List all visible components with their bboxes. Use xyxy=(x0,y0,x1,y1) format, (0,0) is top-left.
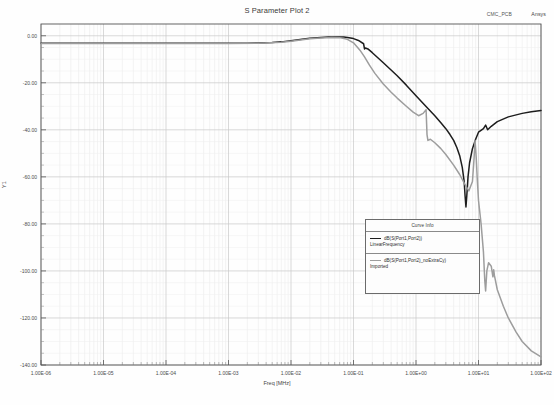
legend-color-swatch-0 xyxy=(370,238,381,239)
legend-entry-0[interactable]: dB(S(Port1,Port2)) LinearFrequency xyxy=(366,232,479,250)
legend-expression-1: dB(S(Port1,Port2)_noExtraCy) xyxy=(384,258,446,263)
svg-text:-100.00: -100.00 xyxy=(20,268,37,274)
axis-tick-labels: 1.00E-061.00E-051.00E-041.00E-031.00E-02… xyxy=(20,33,552,376)
legend-title: Curve Info xyxy=(366,220,479,228)
svg-text:-60.00: -60.00 xyxy=(23,174,37,180)
svg-text:1.00E-03: 1.00E-03 xyxy=(218,370,239,376)
chart-canvas: 1.00E-061.00E-051.00E-041.00E-031.00E-02… xyxy=(0,0,554,405)
legend-sweep-1: Imported xyxy=(370,264,475,269)
svg-text:1.00E-01: 1.00E-01 xyxy=(343,370,364,376)
svg-text:-20.00: -20.00 xyxy=(23,80,37,86)
svg-text:-140.00: -140.00 xyxy=(20,362,37,368)
legend-expression-0: dB(S(Port1,Port2)) xyxy=(384,236,422,241)
svg-text:-40.00: -40.00 xyxy=(23,127,37,133)
svg-text:1.00E+02: 1.00E+02 xyxy=(530,370,552,376)
grid-major xyxy=(41,24,541,365)
svg-text:1.00E+01: 1.00E+01 xyxy=(468,370,490,376)
legend-entry-1[interactable]: dB(S(Port1,Port2)_noExtraCy) Imported xyxy=(366,254,479,272)
svg-text:1.00E-06: 1.00E-06 xyxy=(31,370,52,376)
legend-sweep-0: LinearFrequency xyxy=(370,242,475,247)
svg-text:1.00E-05: 1.00E-05 xyxy=(93,370,114,376)
svg-text:-80.00: -80.00 xyxy=(23,221,37,227)
legend-color-swatch-1 xyxy=(370,260,381,261)
svg-text:1.00E-04: 1.00E-04 xyxy=(156,370,177,376)
legend-panel[interactable]: Curve Info dB(S(Port1,Port2)) LinearFreq… xyxy=(365,219,480,294)
s-parameter-plot: S Parameter Plot 2 CMC_PCB Ansys Y1 Freq… xyxy=(0,0,554,405)
svg-text:1.00E-02: 1.00E-02 xyxy=(281,370,302,376)
svg-text:0.00: 0.00 xyxy=(27,33,37,39)
svg-text:1.00E+00: 1.00E+00 xyxy=(405,370,427,376)
svg-text:-120.00: -120.00 xyxy=(20,315,37,321)
